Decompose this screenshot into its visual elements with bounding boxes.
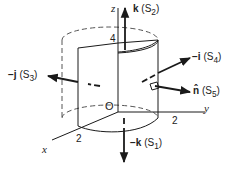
origin-label: O — [105, 101, 114, 112]
z-axis-label: z — [111, 3, 115, 14]
y-tick-label: 2 — [172, 116, 178, 126]
normal-label-s5: n̂ (S5) — [193, 86, 220, 98]
x-axis-label: x — [42, 144, 47, 155]
x-tick-label: 2 — [76, 134, 82, 144]
cylinder-flux-diagram: z 4 y 2 x 2 O k (S2) −j (S3) −i (S4) n̂ … — [0, 0, 234, 174]
normal-label-s1: −k (S1) — [130, 138, 162, 150]
normal-label-s2: k (S2) — [133, 4, 159, 16]
y-axis-label: y — [204, 103, 209, 114]
normal-label-s3: −j (S3) — [8, 70, 37, 82]
normal-label-s4: −i (S4) — [192, 52, 221, 64]
z-tick-label: 4 — [110, 34, 116, 44]
